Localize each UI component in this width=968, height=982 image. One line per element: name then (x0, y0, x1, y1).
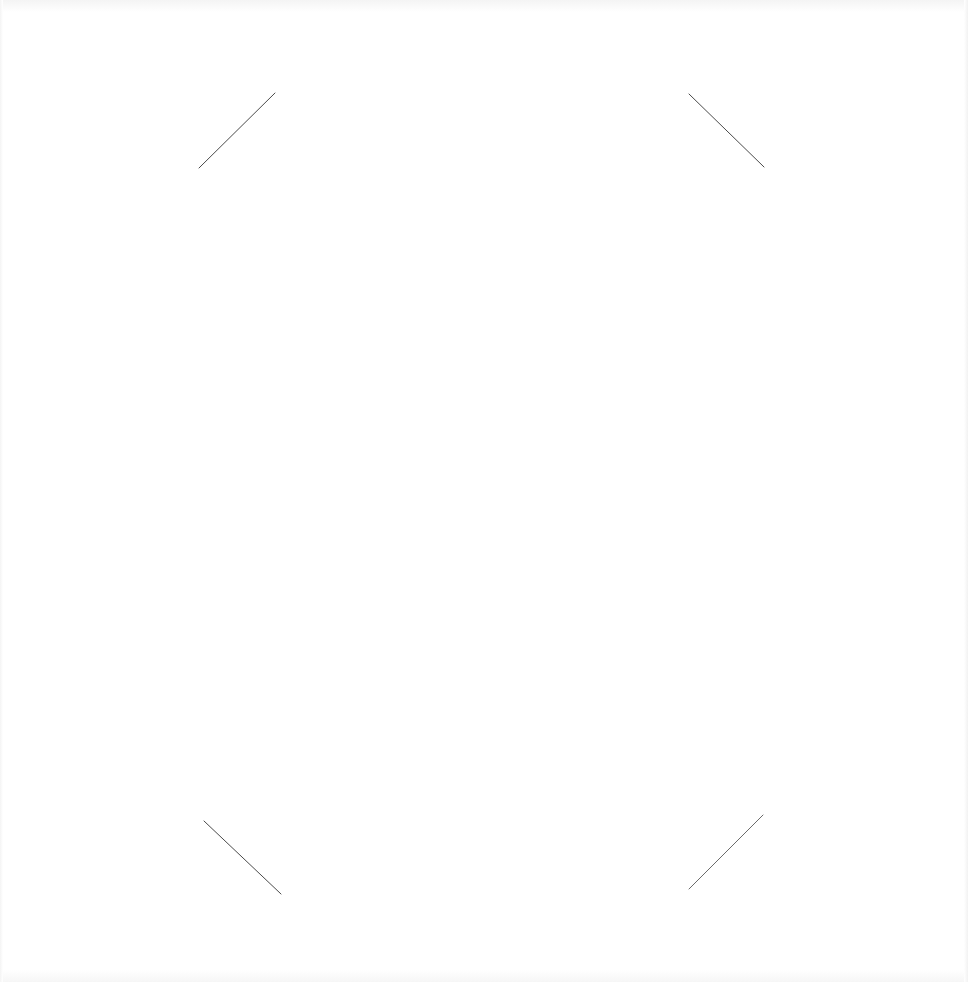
corner-mark-top-right (689, 94, 764, 167)
blank-page (0, 0, 968, 982)
corner-mark-bottom-right (689, 815, 763, 889)
corner-mark-bottom-left (204, 821, 281, 894)
corner-mark-top-left (199, 93, 275, 168)
corner-marks (0, 0, 968, 982)
